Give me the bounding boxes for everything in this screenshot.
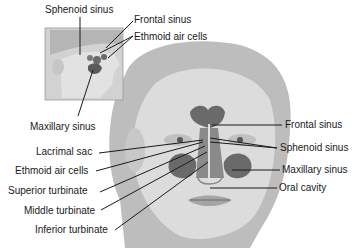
- label-sphenoid-sinus-inset: Sphenoid sinus: [45, 4, 113, 16]
- label-frontal-sinus-inset: Frontal sinus: [134, 14, 191, 26]
- label-frontal-sinus: Frontal sinus: [285, 119, 342, 131]
- label-ethmoid-air-cells-inset: Ethmoid air cells: [134, 31, 207, 43]
- label-lacrimal-sac: Lacrimal sac: [36, 146, 92, 158]
- label-middle-turbinate: Middle turbinate: [24, 205, 95, 217]
- inset-lateral-head: [45, 28, 123, 100]
- front-face-illustration: [109, 41, 290, 248]
- sinus-diagram: Sphenoid sinus Frontal sinus Ethmoid air…: [0, 0, 354, 250]
- label-maxillary-sinus-inset: Maxillary sinus: [30, 121, 96, 133]
- label-superior-turbinate: Superior turbinate: [8, 185, 88, 197]
- label-maxillary-sinus: Maxillary sinus: [282, 164, 348, 176]
- label-sphenoid-sinus: Sphenoid sinus: [280, 142, 348, 154]
- label-ethmoid-air-cells: Ethmoid air cells: [15, 165, 88, 177]
- label-inferior-turbinate: Inferior turbinate: [35, 224, 108, 236]
- label-oral-cavity: Oral cavity: [279, 182, 326, 194]
